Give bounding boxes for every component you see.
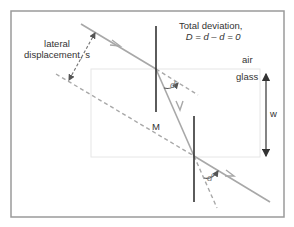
lateral-line2: displacement, s	[21, 49, 93, 60]
lateral-displacement-label: lateral displacement, s	[21, 38, 93, 60]
emergent-ray	[194, 156, 270, 202]
total-deviation-label: Total deviation, D = d – d = 0	[179, 20, 242, 42]
lateral-line1: lateral	[21, 38, 93, 49]
refraction-diagram	[0, 0, 294, 227]
air-label: air	[242, 54, 253, 65]
width-label: w	[270, 108, 277, 119]
angle-label-top: d	[170, 79, 175, 90]
total-deviation-equation: D = d – d = 0	[179, 31, 242, 42]
mirror-label-M: M	[152, 121, 160, 132]
angle-label-bottom: d	[207, 172, 212, 183]
total-deviation-line1: Total deviation,	[179, 20, 242, 31]
refracted-ray-arrow	[176, 101, 183, 110]
glass-label: glass	[236, 71, 258, 82]
